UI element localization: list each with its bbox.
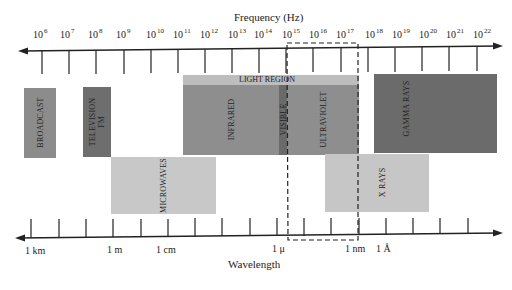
wavelength-tick-1nm: 1 nm xyxy=(345,243,365,254)
wavelength-tick-1angstrom: 1 Å xyxy=(376,243,391,254)
wavelength-tick-1km: 1 km xyxy=(25,245,45,256)
dashed-highlight-box xyxy=(0,0,512,290)
wavelength-tick-1m: 1 m xyxy=(107,244,122,255)
wavelength-tick-1micron: 1 μ xyxy=(272,243,285,254)
wavelength-axis-title: Wavelength xyxy=(228,258,280,270)
wavelength-tick-1cm: 1 cm xyxy=(156,244,176,255)
